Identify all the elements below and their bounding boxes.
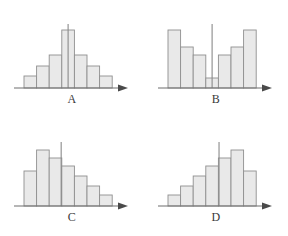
histogram-panel-c: C xyxy=(0,118,144,236)
histogram-bar xyxy=(168,195,181,206)
panel-label-a: A xyxy=(0,92,144,107)
histogram-bar xyxy=(37,66,50,88)
histogram-bar xyxy=(87,186,100,206)
x-axis-arrow-icon-a xyxy=(118,84,128,91)
x-axis-arrow-icon-d xyxy=(262,202,272,209)
histogram-bar xyxy=(181,186,194,206)
histogram-bar xyxy=(244,30,257,88)
histogram-panel-a: A xyxy=(0,0,144,118)
histogram-bar xyxy=(74,55,87,88)
histogram-bar xyxy=(168,30,181,88)
histogram-bar xyxy=(193,176,206,206)
x-axis-arrow-icon-b xyxy=(262,84,272,91)
histogram-panel-b: B xyxy=(144,0,288,118)
bars-group-d xyxy=(168,150,256,206)
histogram-bar xyxy=(37,150,50,206)
histogram-bar xyxy=(193,55,206,88)
bars-group-c xyxy=(24,150,112,206)
histogram-bar xyxy=(74,176,87,206)
histogram-figure-grid: A B C D xyxy=(0,0,288,236)
panel-label-c: C xyxy=(0,210,144,225)
histogram-bar xyxy=(100,195,113,206)
histogram-bar xyxy=(231,47,244,88)
histogram-bar xyxy=(181,47,194,88)
histogram-bar xyxy=(49,55,62,88)
histogram-panel-d: D xyxy=(144,118,288,236)
histogram-bar xyxy=(206,166,219,206)
histogram-bar xyxy=(24,76,37,88)
histogram-bar xyxy=(62,166,75,206)
histogram-bar xyxy=(100,76,113,88)
histogram-bar xyxy=(231,150,244,206)
histogram-bar xyxy=(218,55,231,88)
x-axis-arrow-icon-c xyxy=(118,202,128,209)
histogram-bar xyxy=(87,66,100,88)
histogram-bar xyxy=(244,171,257,206)
histogram-bar xyxy=(218,158,231,206)
panel-label-d: D xyxy=(144,210,288,225)
histogram-bar xyxy=(24,171,37,206)
histogram-bar xyxy=(49,158,62,206)
panel-label-b: B xyxy=(144,92,288,107)
